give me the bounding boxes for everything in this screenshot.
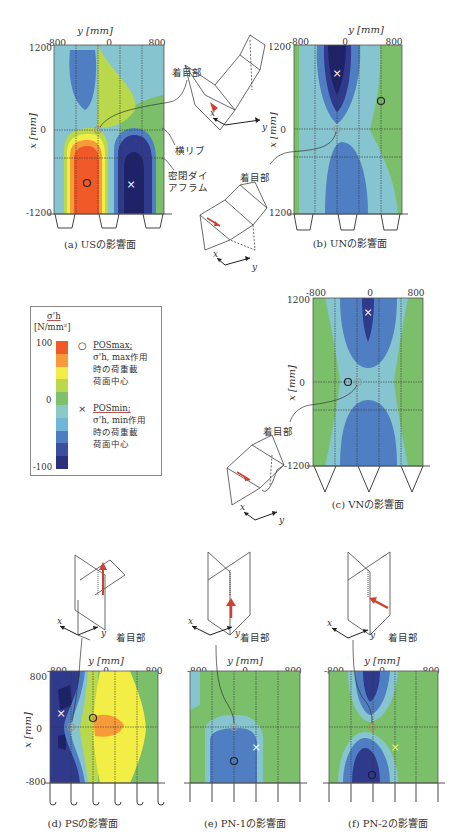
svg-text:x: x [240,502,245,512]
sketch-a-isometric: x y [180,30,270,140]
panel-d-ps: x y y [mm] -800 0 800 800 0 -800 x [mm] … [0,540,165,839]
load-arrow-icon [373,600,388,608]
legend-max-desc: 荷面中心 [93,376,129,387]
axis-triad-icon [192,626,232,635]
annot-a-rib: 横リブ [175,143,205,157]
colorbar [56,341,68,469]
svg-text:x: x [213,249,218,259]
sketch-b-isometric: x y [195,180,275,275]
colorbar-band [56,418,68,431]
legend-tick-zero: 0 [46,395,51,406]
legend-max-label: POSmax; [93,340,132,351]
panel-c-xtick: 1200 [287,295,310,305]
legend-max-desc: σ'h, max作用 [93,352,148,363]
min-position-marker: × [390,741,399,754]
sketch-f-isometric [348,552,390,635]
panel-e-pn1: x y y [mm] -800 0 800 × (e) PN-1の影響面 [160,540,315,839]
panel-b-xtick: 0 [280,125,286,135]
colorbar-legend: σ'h [N/mm²] 100 0 -100 ○ POSmax; σ'h, ma… [30,306,162,476]
panel-a-caption: (a) USの影響面 [64,238,136,250]
panel-f-y-axis-title: y [mm] [363,655,400,666]
panel-c-v-ribs [314,466,423,492]
annot-d-focus: 着目部 [116,630,146,644]
legend-tick-max: 100 [36,338,52,349]
panel-a-contour [54,45,164,214]
legend-tick-min: -100 [33,462,52,473]
axis-triad-icon [60,626,98,635]
legend-unit: [N/mm²] [34,322,70,333]
colorbar-band [56,443,68,456]
panel-e-y-axis-title: y [mm] [226,655,263,666]
annot-e-focus: 着目部 [240,630,270,644]
panel-d-stud-ribs [50,783,164,805]
panel-d-xtick: 800 [30,672,47,682]
panel-a-xtick: 1200 [29,43,52,53]
svg-text:y: y [261,122,268,132]
panel-a-x-axis-title: x [mm] [27,113,38,149]
sketch-d-isometric [75,555,125,640]
panel-c-x-axis-title: x [mm] [286,365,297,401]
colorbar-band [56,367,68,380]
panel-a-y-axis-title: y [mm] [76,25,113,36]
panel-c-caption: (c) VNの影響面 [332,498,405,510]
panel-e-flat-ribs [190,783,300,802]
min-position-marker: × [332,67,341,80]
min-position-marker: × [363,306,372,319]
panel-b-x-axis-title: x [mm] [270,112,278,148]
panel-b-caption: (b) UNの影響面 [313,237,388,249]
svg-text:y: y [278,515,285,525]
min-symbol: × [78,403,86,414]
axis-triad-icon [213,118,260,125]
svg-text:x: x [327,618,332,628]
legend-min-desc: 時の荷重載 [93,427,138,438]
min-position-marker: × [56,707,65,720]
colorbar-band [56,354,68,367]
panel-c-xtick: 0 [299,378,305,388]
svg-text:y: y [369,630,376,640]
svg-text:x: x [57,616,62,626]
panel-f-caption: (f) PN-2の影響面 [348,817,428,829]
panel-c-ytick: 800 [407,288,424,298]
sketch-c-isometric: x y [222,430,302,525]
panel-e-caption: (e) PN-1の影響面 [204,817,286,829]
colorbar-band [56,379,68,392]
colorbar-band [56,392,68,405]
legend-min-desc: 荷面中心 [93,439,129,450]
panel-f-flat-ribs [329,783,438,802]
colorbar-band [56,405,68,418]
panel-a-xtick: 0 [40,125,46,135]
svg-text:x: x [188,616,193,626]
axis-triad-icon [244,512,277,520]
svg-text:y: y [100,628,107,638]
panel-b-un: y [mm] -800 0 800 1200 0 -1200 x [mm] × … [270,0,470,260]
panel-b-y-axis-title: y [mm] [347,24,384,35]
max-symbol: ○ [78,340,87,351]
colorbar-band [56,341,68,354]
panel-a-u-ribs [55,214,163,228]
panel-b-contour [294,45,402,214]
panel-d-xtick: -800 [26,777,46,787]
panel-f-pn2: x y y [mm] -800 0 800 × (f) PN-2の影響面 [310,540,471,839]
panel-c-ytick: 0 [367,288,373,298]
legend-min-label: POSmin; [93,403,131,414]
legend-title: σ'h [47,311,61,322]
panel-b-xtick: 1200 [270,42,291,52]
panel-d-caption: (d) PSの影響面 [48,817,119,829]
legend-min-desc: σ'h, min作用 [93,415,146,426]
panel-a-us: y [mm] -800 0 800 1200 0 -1200 x [mm] × … [0,0,200,260]
sketch-e-isometric [208,552,250,635]
load-arrow-icon [214,221,220,226]
panel-d-y-axis-title: y [mm] [87,655,124,666]
svg-text:y: y [251,262,258,272]
legend-max-desc: 時の荷重載 [93,364,138,375]
colorbar-band [56,456,68,469]
panel-b-u-ribs [294,214,400,230]
panel-d-x-axis-title: x [mm] [22,712,33,748]
panel-a-xtick: -1200 [26,208,52,218]
svg-text:x: x [210,108,215,118]
min-position-marker: × [251,741,260,754]
annot-f-focus: 着目部 [388,630,418,644]
colorbar-band [56,431,68,444]
panel-d-xtick: 0 [36,724,42,734]
min-position-marker: × [126,178,135,191]
